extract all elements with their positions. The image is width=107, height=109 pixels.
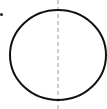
diagram-canvas <box>0 0 107 109</box>
dot-marker <box>0 13 3 16</box>
